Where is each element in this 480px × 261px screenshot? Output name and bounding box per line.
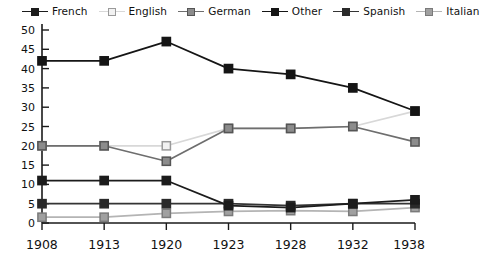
legend-marker-french-icon: [22, 6, 48, 17]
legend-marker-spanish-icon: [333, 6, 359, 17]
y-axis-tick-label: 10: [21, 178, 35, 191]
plot-svg: 0510152025303540455019081913192019231928…: [0, 22, 425, 261]
data-point-french-1938: [411, 196, 419, 204]
data-point-german-1928: [287, 124, 295, 132]
data-point-french-1928: [287, 203, 295, 211]
series-line-other: [42, 42, 415, 111]
data-point-other-1928: [287, 70, 295, 78]
legend-marker-italian-icon: [416, 6, 442, 17]
legend-label: English: [129, 6, 168, 17]
x-axis-tick-label: 1920: [150, 237, 182, 252]
data-point-italian-1913: [100, 213, 108, 221]
data-point-other-1923: [224, 65, 232, 73]
y-axis-tick-label: 20: [21, 140, 35, 153]
y-axis-tick-label: 15: [21, 159, 35, 172]
legend-label: German: [208, 6, 251, 17]
data-point-german-1923: [224, 124, 232, 132]
x-axis-tick-label: 1913: [88, 237, 120, 252]
legend-marker-english-icon: [99, 6, 125, 17]
data-point-spanish-1920: [162, 200, 170, 208]
y-axis-tick-label: 45: [21, 43, 35, 56]
x-axis-tick-label: 1928: [275, 237, 307, 252]
y-axis-tick-label: 30: [21, 101, 35, 114]
data-point-french-1908: [38, 176, 46, 184]
data-point-other-1920: [162, 37, 170, 45]
data-point-french-1913: [100, 176, 108, 184]
x-axis-tick-label: 1932: [337, 237, 369, 252]
x-axis-tick-label: 1938: [393, 237, 425, 252]
data-point-italian-1908: [38, 213, 46, 221]
data-point-french-1932: [349, 200, 357, 208]
legend-item-italian[interactable]: Italian: [416, 6, 479, 17]
data-point-other-1913: [100, 57, 108, 65]
x-axis-tick-label: 1908: [26, 237, 58, 252]
y-axis-tick-label: 35: [21, 82, 35, 95]
plot-area: 0510152025303540455019081913192019231928…: [0, 22, 425, 261]
data-point-other-1932: [349, 84, 357, 92]
x-axis-tick-label: 1923: [213, 237, 245, 252]
legend-marker-german-icon: [178, 6, 204, 17]
data-point-english-1920: [162, 142, 170, 150]
data-point-spanish-1913: [100, 200, 108, 208]
y-axis-tick-label: 0: [28, 217, 35, 230]
legend-label: French: [52, 6, 88, 17]
data-point-spanish-1908: [38, 200, 46, 208]
legend-label: Spanish: [363, 6, 405, 17]
data-point-german-1932: [349, 122, 357, 130]
legend-label: Other: [292, 6, 322, 17]
data-point-german-1913: [100, 142, 108, 150]
legend-item-english[interactable]: English: [99, 6, 168, 17]
y-axis-tick-label: 25: [21, 121, 35, 134]
y-axis-tick-label: 5: [28, 198, 35, 211]
data-point-german-1920: [162, 157, 170, 165]
data-point-other-1908: [38, 57, 46, 65]
legend-label: Italian: [446, 6, 479, 17]
legend-marker-other-icon: [262, 6, 288, 17]
legend-item-other[interactable]: Other: [262, 6, 322, 17]
chart-legend: FrenchEnglishGermanOtherSpanishItalian: [0, 0, 425, 22]
data-point-french-1923: [224, 202, 232, 210]
data-point-other-1938: [411, 107, 419, 115]
y-axis-tick-label: 40: [21, 63, 35, 76]
data-point-german-1908: [38, 142, 46, 150]
data-point-italian-1920: [162, 209, 170, 217]
data-point-german-1938: [411, 138, 419, 146]
legend-item-german[interactable]: German: [178, 6, 251, 17]
legend-item-spanish[interactable]: Spanish: [333, 6, 405, 17]
legend-item-french[interactable]: French: [22, 6, 88, 17]
data-point-french-1920: [162, 176, 170, 184]
y-axis-tick-label: 50: [21, 24, 35, 37]
